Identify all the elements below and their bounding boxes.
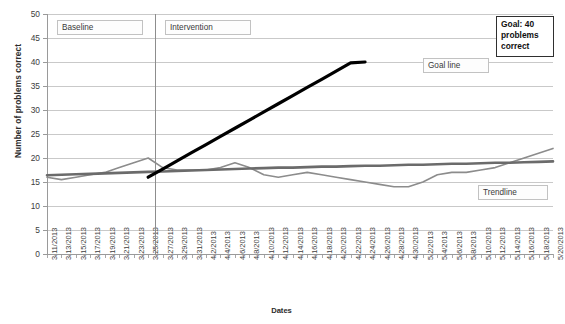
goal-box-label: Goal: 40 problems correct bbox=[501, 19, 539, 51]
baseline-callout-label: Baseline bbox=[62, 23, 93, 32]
goal-box-callout: Goal: 40 problems correct bbox=[496, 16, 554, 57]
series-line bbox=[148, 62, 365, 177]
trendline-callout-label: Trendline bbox=[483, 188, 517, 197]
intervention-callout-label: Intervention bbox=[170, 23, 213, 32]
goal-line-callout: Goal line bbox=[423, 58, 489, 73]
intervention-callout: Intervention bbox=[165, 20, 251, 35]
goal-line-callout-label: Goal line bbox=[428, 61, 460, 70]
baseline-callout: Baseline bbox=[57, 20, 143, 35]
trendline-callout: Trendline bbox=[478, 185, 548, 200]
